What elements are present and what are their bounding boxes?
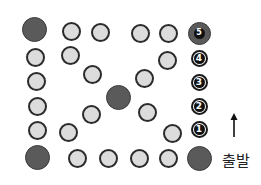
small-circle — [99, 149, 118, 168]
small-circle — [82, 105, 101, 124]
start-label: 출발 — [222, 149, 250, 170]
small-circle — [68, 149, 87, 168]
small-circle — [138, 103, 157, 122]
small-circle — [28, 97, 47, 116]
small-circle — [62, 22, 81, 41]
up-arrow-icon — [229, 113, 239, 137]
marker-number: 4 — [194, 53, 205, 64]
circle-path-diagram: 출발 12345 — [0, 0, 261, 185]
small-circle — [163, 124, 182, 143]
big-dark-circle — [25, 145, 50, 170]
small-circle — [91, 23, 110, 42]
small-circle — [28, 121, 47, 140]
marker-number: 2 — [194, 101, 205, 112]
small-circle — [159, 149, 178, 168]
numbered-marker-3: 3 — [191, 74, 208, 91]
small-circle — [158, 51, 177, 70]
big-dark-circle — [106, 85, 131, 110]
small-circle — [27, 72, 46, 91]
small-circle — [159, 24, 178, 43]
marker-number: 3 — [194, 77, 205, 88]
marker-number: 1 — [194, 124, 205, 135]
big-dark-circle — [187, 146, 212, 171]
numbered-marker-4: 4 — [191, 50, 208, 67]
small-circle — [59, 123, 78, 142]
numbered-marker-2: 2 — [191, 98, 208, 115]
small-circle — [83, 65, 102, 84]
marker-number: 5 — [194, 28, 205, 39]
small-circle — [61, 46, 80, 65]
big-dark-circle — [22, 17, 47, 42]
small-circle — [135, 69, 154, 88]
small-circle — [131, 24, 150, 43]
numbered-marker-1: 1 — [191, 121, 208, 138]
small-circle — [26, 48, 45, 67]
small-circle — [130, 149, 149, 168]
numbered-marker-5: 5 — [188, 22, 211, 45]
